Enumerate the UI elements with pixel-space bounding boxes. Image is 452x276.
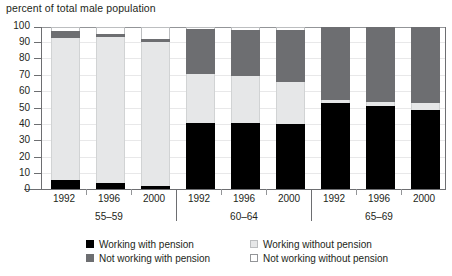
x-axis-label-6: 2000 <box>267 193 311 204</box>
segment-wwp <box>231 123 260 189</box>
bar-65-69-1992 <box>321 27 350 189</box>
y-tick-0 <box>34 189 41 190</box>
y-tick-60 <box>34 91 41 92</box>
x-axis-baseline <box>24 189 446 190</box>
x-axis-label-3: 2000 <box>132 193 176 204</box>
y-axis-label-100: 100 <box>0 21 30 31</box>
segment-wwo <box>231 76 260 123</box>
segment-nwwp <box>231 30 260 75</box>
x-axis-label-5: 1996 <box>222 193 266 204</box>
dark-gray-swatch-icon <box>86 254 94 262</box>
y-axis-label-70: 70 <box>0 70 30 80</box>
x-axis-label-9: 2000 <box>402 193 446 204</box>
segment-wwo <box>96 37 125 183</box>
segment-wwp <box>411 110 440 189</box>
y-axis-label-60: 60 <box>0 86 30 96</box>
y-tick-20 <box>34 157 41 158</box>
black-swatch-icon <box>86 240 94 248</box>
segment-wwo <box>186 74 215 123</box>
x-axis-label-2: 1996 <box>87 193 131 204</box>
y-tick-30 <box>34 140 41 141</box>
x-axis-label-4: 1992 <box>177 193 221 204</box>
segment-wwo <box>141 42 170 186</box>
legend-label-working-with-pension: Working with pension <box>99 239 194 250</box>
segment-nwwp <box>276 30 305 82</box>
segment-wwp <box>366 106 395 189</box>
legend-row-1: Working with pension Working without pen… <box>86 237 426 251</box>
segment-wwp <box>141 186 170 189</box>
y-tick-100 <box>34 27 41 28</box>
y-axis-label-80: 80 <box>0 53 30 63</box>
bar-60-64-1992 <box>186 27 215 189</box>
segment-nwwp <box>186 29 215 74</box>
x-axis-label-8: 1996 <box>357 193 401 204</box>
segment-wwp <box>186 123 215 189</box>
legend-row-2: Not working with pension Not working wit… <box>86 251 426 265</box>
segment-nwwp <box>366 27 395 102</box>
legend-label-not-working-without-pension: Not working without pension <box>263 253 388 264</box>
segment-nwwo <box>141 27 170 39</box>
segment-wwp <box>51 180 80 189</box>
y-axis-label-50: 50 <box>0 103 30 113</box>
x-axis-label-1: 1992 <box>42 193 86 204</box>
y-axis-title: percent of total male population <box>6 2 156 14</box>
bars-layer <box>41 27 446 189</box>
x-axis-label-7: 1992 <box>312 193 356 204</box>
y-tick-50 <box>34 108 41 109</box>
bar-65-69-2000 <box>411 27 440 189</box>
segment-wwp <box>276 124 305 189</box>
legend-item-not-working-with-pension: Not working with pension <box>86 253 250 264</box>
y-axis-label-20: 20 <box>0 152 30 162</box>
y-tick-90 <box>34 42 41 43</box>
bar-60-64-2000 <box>276 27 305 189</box>
chart-legend: Working with pension Working without pen… <box>86 237 426 265</box>
y-axis-label-40: 40 <box>0 119 30 129</box>
y-axis-label-30: 30 <box>0 135 30 145</box>
segment-wwp <box>96 183 125 189</box>
legend-item-working-with-pension: Working with pension <box>86 239 250 250</box>
bar-65-69-1996 <box>366 27 395 189</box>
bar-55-59-2000 <box>141 27 170 189</box>
segment-wwp <box>321 103 350 189</box>
y-tick-70 <box>34 75 41 76</box>
y-axis-label-0: 0 <box>0 184 30 194</box>
bar-55-59-1996 <box>96 27 125 189</box>
y-tick-10 <box>34 173 41 174</box>
bar-60-64-1996 <box>231 27 260 189</box>
y-tick-80 <box>34 58 41 59</box>
y-tick-40 <box>34 124 41 125</box>
group-label-55-59: 55–59 <box>49 211 169 222</box>
light-gray-swatch-icon <box>250 240 258 248</box>
legend-item-working-without-pension: Working without pension <box>250 239 426 250</box>
segment-wwo <box>276 82 305 124</box>
bar-55-59-1992 <box>51 27 80 189</box>
segment-nwwp <box>411 27 440 103</box>
segment-nwwp <box>321 27 350 100</box>
group-label-65-69: 65–69 <box>319 211 439 222</box>
y-axis-label-10: 10 <box>0 168 30 178</box>
legend-item-not-working-without-pension: Not working without pension <box>250 253 426 264</box>
legend-label-not-working-with-pension: Not working with pension <box>99 253 210 264</box>
legend-label-working-without-pension: Working without pension <box>263 239 372 250</box>
segment-wwo <box>51 38 80 181</box>
stacked-bar-chart: percent of total male population 100 90 … <box>0 0 452 276</box>
white-swatch-icon <box>250 254 258 262</box>
y-axis-label-90: 90 <box>0 37 30 47</box>
group-label-60-64: 60–64 <box>184 211 304 222</box>
